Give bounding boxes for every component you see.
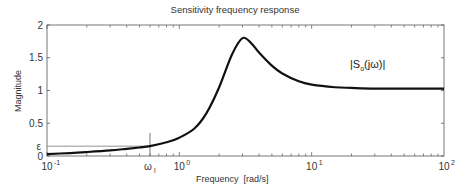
svg-text:10: 10 [306, 161, 318, 172]
axes-frame [47, 25, 444, 156]
svg-text:1: 1 [37, 85, 43, 96]
svg-text:ε: ε [37, 141, 42, 152]
chart-plot: 00.511.5210-1100101102 εωl [0, 0, 470, 190]
sensitivity-curve [47, 38, 444, 154]
svg-text:1: 1 [319, 159, 323, 166]
svg-text:l: l [154, 167, 156, 174]
svg-text:10: 10 [438, 161, 450, 172]
axis-ticks: 00.511.5210-1100101102 [29, 20, 455, 173]
svg-text:2: 2 [451, 159, 455, 166]
svg-text:ω: ω [144, 161, 152, 172]
svg-text:0.5: 0.5 [29, 118, 43, 129]
svg-text:1.5: 1.5 [29, 52, 43, 63]
svg-text:2: 2 [37, 20, 43, 31]
svg-text:-1: -1 [54, 159, 60, 166]
svg-text:0: 0 [186, 159, 190, 166]
svg-text:10: 10 [41, 161, 53, 172]
svg-text:10: 10 [174, 161, 186, 172]
